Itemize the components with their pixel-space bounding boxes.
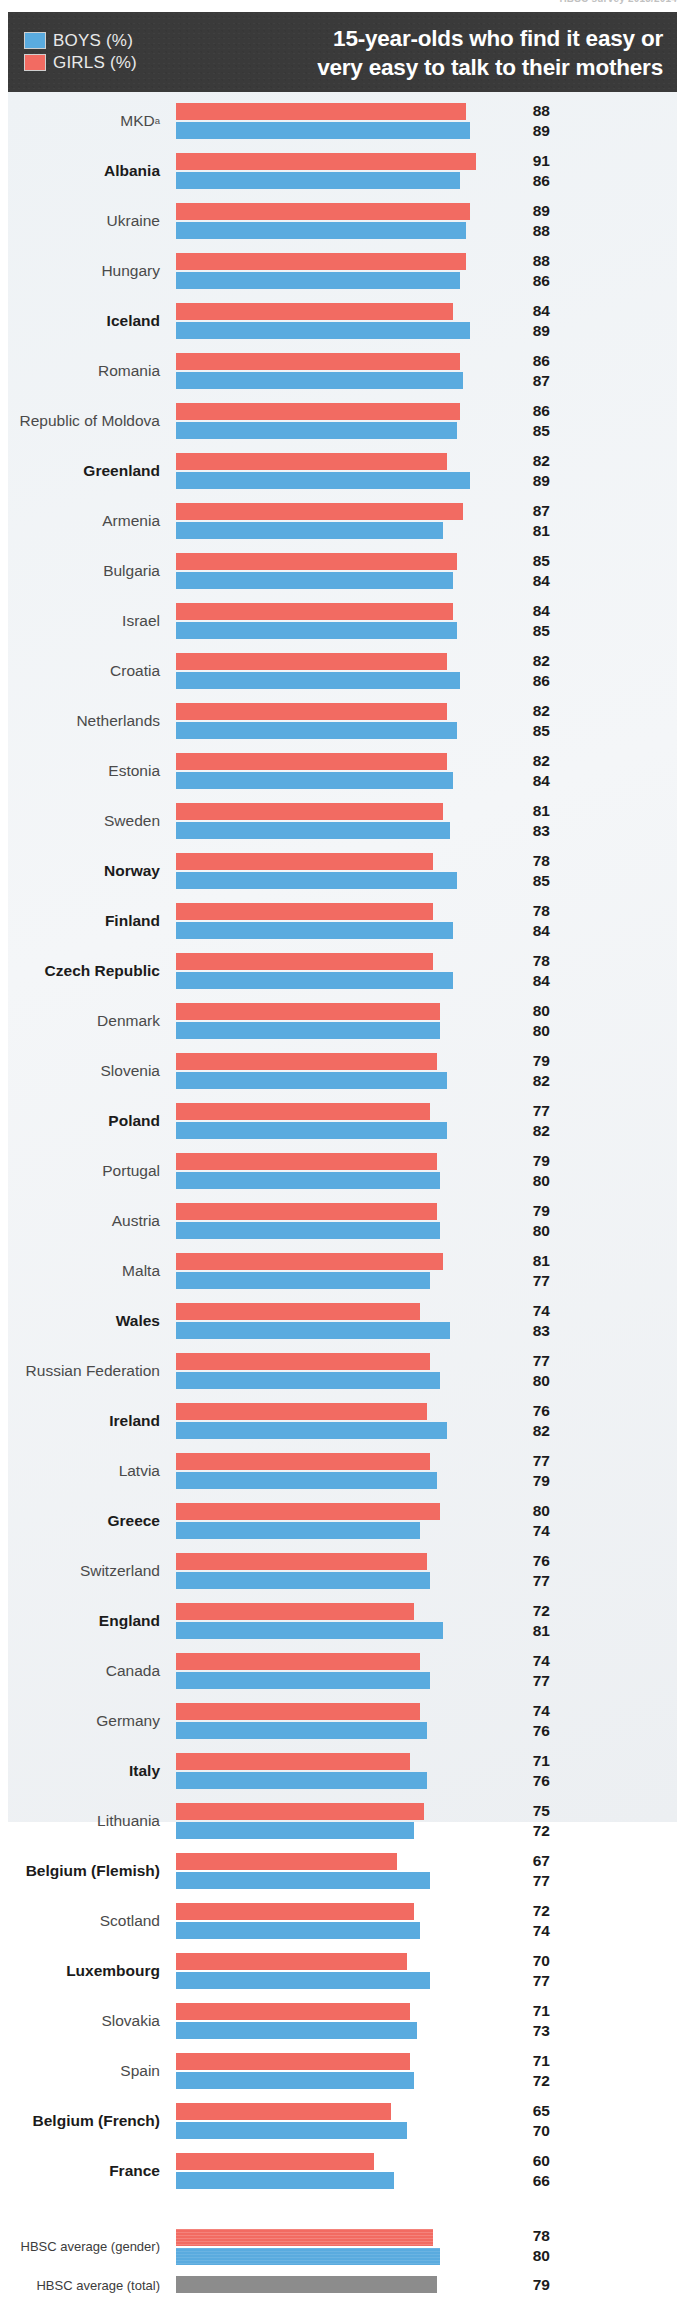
bar-pair bbox=[176, 96, 506, 146]
bar-girls bbox=[176, 1853, 397, 1870]
row-values: 8289 bbox=[506, 446, 550, 496]
value-boys: 77 bbox=[533, 1971, 550, 1991]
value-girls: 72 bbox=[533, 1901, 550, 1921]
value-boys: 83 bbox=[533, 821, 550, 841]
row-values: 8183 bbox=[506, 796, 550, 846]
value-girls: 84 bbox=[533, 301, 550, 321]
row-values: 8177 bbox=[506, 1246, 550, 1296]
row-values: 8286 bbox=[506, 646, 550, 696]
bar-boys bbox=[176, 2072, 414, 2089]
bar-boys bbox=[176, 1122, 447, 1139]
bar-girls bbox=[176, 2153, 374, 2170]
country-label: Latvia bbox=[8, 1446, 168, 1496]
bar-row: Sweden8183 bbox=[8, 796, 677, 846]
bar-boys bbox=[176, 1722, 427, 1739]
bar-girls bbox=[176, 1603, 414, 1620]
bar-boys bbox=[176, 122, 470, 139]
value-boys: 82 bbox=[533, 1421, 550, 1441]
bar-pair bbox=[176, 746, 506, 796]
value-boys: 85 bbox=[533, 621, 550, 641]
bar-row: Belgium (Flemish)6777 bbox=[8, 1846, 677, 1896]
value-boys: 72 bbox=[533, 2071, 550, 2091]
legend-item-girls[interactable]: GIRLS (%) bbox=[24, 52, 137, 73]
bar-pair bbox=[176, 1646, 506, 1696]
bar-row: Ireland7682 bbox=[8, 1396, 677, 1446]
bar-girls bbox=[176, 553, 457, 570]
bar-row: Finland7884 bbox=[8, 896, 677, 946]
row-values: 7980 bbox=[506, 1146, 550, 1196]
bar-boys bbox=[176, 2122, 407, 2139]
bar-row: Slovenia7982 bbox=[8, 1046, 677, 1096]
average-value-boys: 80 bbox=[533, 2246, 550, 2266]
legend-swatch-boys-icon bbox=[24, 32, 46, 49]
value-girls: 80 bbox=[533, 1001, 550, 1021]
country-label: Slovenia bbox=[8, 1046, 168, 1096]
value-boys: 86 bbox=[533, 271, 550, 291]
value-boys: 76 bbox=[533, 1771, 550, 1791]
bar-girls bbox=[176, 1153, 437, 1170]
bar-pair bbox=[176, 1146, 506, 1196]
average-gender-values: 78 80 bbox=[506, 2222, 550, 2270]
bar-boys bbox=[176, 1822, 414, 1839]
value-girls: 70 bbox=[533, 1951, 550, 1971]
bar-pair bbox=[176, 1896, 506, 1946]
row-values: 7077 bbox=[506, 1946, 550, 1996]
row-values: 9186 bbox=[506, 146, 550, 196]
bar-boys bbox=[176, 972, 453, 989]
bar-row: Wales7483 bbox=[8, 1296, 677, 1346]
value-girls: 82 bbox=[533, 751, 550, 771]
row-values: 6777 bbox=[506, 1846, 550, 1896]
bar-row: Germany7476 bbox=[8, 1696, 677, 1746]
value-girls: 78 bbox=[533, 901, 550, 921]
bar-boys bbox=[176, 1672, 430, 1689]
bar-girls bbox=[176, 603, 453, 620]
row-values: 8285 bbox=[506, 696, 550, 746]
bar-pair bbox=[176, 546, 506, 596]
bar-row: Malta8177 bbox=[8, 1246, 677, 1296]
row-values: 7884 bbox=[506, 946, 550, 996]
country-label: Lithuania bbox=[8, 1796, 168, 1846]
country-label: Belgium (French) bbox=[8, 2096, 168, 2146]
bar-row: Ukraine8988 bbox=[8, 196, 677, 246]
legend-item-boys[interactable]: BOYS (%) bbox=[24, 30, 137, 51]
row-values: 8687 bbox=[506, 346, 550, 396]
bar-boys bbox=[176, 722, 457, 739]
bar-girls bbox=[176, 1703, 420, 1720]
row-values: 7780 bbox=[506, 1346, 550, 1396]
bar-row: Israel8485 bbox=[8, 596, 677, 646]
bar-row: Albania9186 bbox=[8, 146, 677, 196]
value-boys: 82 bbox=[533, 1071, 550, 1091]
bar-pair bbox=[176, 246, 506, 296]
bar-pair bbox=[176, 496, 506, 546]
bar-pair bbox=[176, 1196, 506, 1246]
row-values: 8489 bbox=[506, 296, 550, 346]
bar-boys bbox=[176, 522, 443, 539]
bar-pair bbox=[176, 1446, 506, 1496]
bar-girls bbox=[176, 1903, 414, 1920]
country-label: France bbox=[8, 2146, 168, 2196]
country-label: Greenland bbox=[8, 446, 168, 496]
bar-boys bbox=[176, 272, 460, 289]
bar-boys bbox=[176, 472, 470, 489]
value-boys: 80 bbox=[533, 1371, 550, 1391]
bar-pair bbox=[176, 1796, 506, 1846]
bar-girls bbox=[176, 653, 447, 670]
bar-girls bbox=[176, 503, 463, 520]
bar-boys bbox=[176, 1772, 427, 1789]
bar-pair bbox=[176, 896, 506, 946]
value-girls: 82 bbox=[533, 651, 550, 671]
row-values: 7274 bbox=[506, 1896, 550, 1946]
bar-boys bbox=[176, 922, 453, 939]
value-girls: 60 bbox=[533, 2151, 550, 2171]
bar-girls bbox=[176, 403, 460, 420]
bar-pair bbox=[176, 2146, 506, 2196]
value-boys: 77 bbox=[533, 1571, 550, 1591]
value-girls: 75 bbox=[533, 1801, 550, 1821]
bar-pair bbox=[176, 1546, 506, 1596]
bar-boys bbox=[176, 1572, 430, 1589]
value-boys: 89 bbox=[533, 121, 550, 141]
bar-girls bbox=[176, 1253, 443, 1270]
bar-girls bbox=[176, 453, 447, 470]
bar-row: Slovakia7173 bbox=[8, 1996, 677, 2046]
